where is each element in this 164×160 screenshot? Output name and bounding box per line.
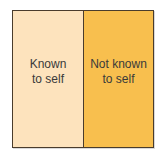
pane-label-line2: to self bbox=[32, 72, 64, 86]
pane-label-line2: to self bbox=[102, 72, 134, 86]
pane-label: Not known to self bbox=[90, 57, 147, 87]
pane-label-line1: Not known bbox=[90, 57, 147, 71]
pane-label: Known to self bbox=[30, 57, 67, 87]
pane-known-to-self: Known to self bbox=[13, 11, 84, 147]
pane-label-line1: Known bbox=[30, 57, 67, 71]
pane-not-known-to-self: Not known to self bbox=[84, 11, 153, 147]
johari-window-diagram: Known to self Not known to self bbox=[12, 10, 154, 148]
